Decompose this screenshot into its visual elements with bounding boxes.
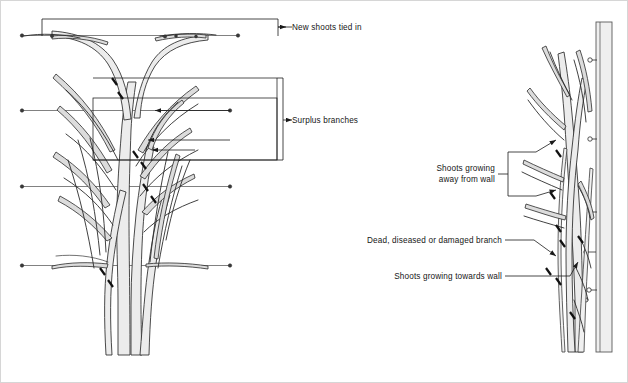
wall-post [596, 22, 612, 352]
label-surplus-branches: Surplus branches [292, 116, 358, 125]
panel-side-view [498, 22, 612, 352]
callout-new-shoots-tied [42, 19, 292, 36]
side-shoots-left [52, 74, 118, 269]
callout-shoots-away [498, 140, 556, 196]
label-shoots-away-line1: Shoots growing [436, 164, 495, 173]
label-dead-diseased-branch: Dead, diseased or damaged branch [367, 236, 502, 245]
callout-dead-branch [505, 240, 556, 256]
label-shoots-away-line2: away from wall [439, 175, 495, 184]
panel-front-view [20, 19, 292, 355]
label-new-shoots-tied-in: New shoots tied in [292, 23, 362, 32]
diagram-page: New shoots tied in Surplus branches Shoo… [0, 0, 628, 383]
label-shoots-towards-wall: Shoots growing towards wall [394, 272, 502, 281]
pruning-diagram-illustration: New shoots tied in Surplus branches Shoo… [0, 0, 628, 383]
wall-tie [587, 288, 597, 292]
